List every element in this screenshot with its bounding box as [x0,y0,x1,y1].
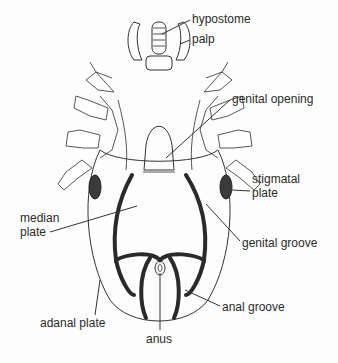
leg-1-right [204,62,232,92]
label-palp: palp [192,32,215,46]
leg-1-left [86,62,114,92]
body-outline [88,150,230,321]
gnathosoma [128,22,190,70]
legs-left [58,62,118,190]
basis-capituli [146,56,172,70]
median-plate-leader [50,206,137,232]
genital-opening-shape [144,126,174,170]
genital-groove [115,175,205,260]
leg-4-left [58,160,92,190]
leg-3-left [66,130,100,148]
stigmatal-plate-leader [232,190,250,191]
label-anal-groove: anal groove [222,300,285,314]
anal-groove-leader [185,290,220,306]
palp-left [128,22,142,60]
label-genital-groove: genital groove [242,236,318,250]
label-adanal-plate: adanal plate [40,316,106,330]
leg-3-right [218,130,252,148]
palp-leader [180,40,190,44]
label-median-plate-1: median [20,211,59,225]
mite-diagram: hypostome palp genital opening stigmatal… [0,0,338,363]
label-median-plate-2: plate [20,225,46,239]
label-genital-opening: genital opening [232,92,313,106]
legs-right [200,62,260,190]
label-stigmatal-plate-2: plate [252,186,278,200]
adanal-plate-leader [95,280,100,315]
label-stigmatal-plate-1: stigmatal [252,172,300,186]
hypostome-shape [152,22,166,54]
stigmatal-plate-left [89,175,101,199]
diagram-canvas: hypostome palp genital opening stigmatal… [0,0,338,363]
label-hypostome: hypostome [192,12,251,26]
stigmatal-plate-right [220,175,232,199]
anus-shape [155,261,165,275]
genital-groove-leader [206,204,240,241]
label-anus: anus [146,332,172,346]
